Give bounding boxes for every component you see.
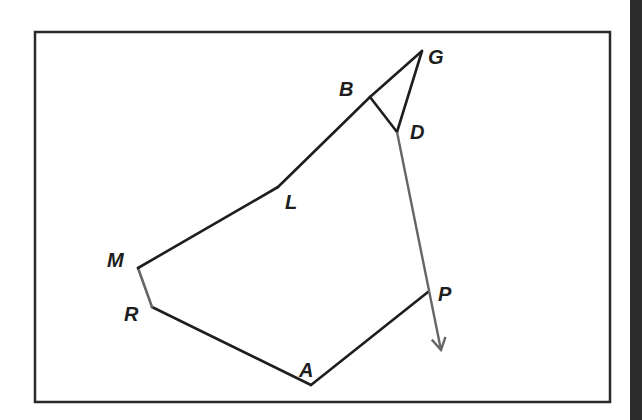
geometry-diagram: G B D L M R A P xyxy=(0,0,642,420)
label-G: G xyxy=(428,46,444,68)
vertex-labels: G B D L M R A P xyxy=(107,46,452,381)
label-B: B xyxy=(339,78,353,100)
segment-AP xyxy=(311,292,428,385)
segment-LB xyxy=(278,97,370,187)
label-P: P xyxy=(438,283,452,305)
segment-RM xyxy=(138,268,152,307)
arrow-shaft xyxy=(397,132,441,350)
segment-ML xyxy=(138,187,278,268)
polygon-segments xyxy=(138,51,428,385)
segment-BD xyxy=(370,97,397,132)
label-A: A xyxy=(298,359,313,381)
label-L: L xyxy=(285,191,297,213)
direction-arrow xyxy=(397,132,445,350)
diagram-canvas: G B D L M R A P xyxy=(0,0,642,420)
scan-edge-strip xyxy=(630,0,642,420)
label-M: M xyxy=(107,249,125,271)
diagram-frame xyxy=(35,32,610,402)
label-D: D xyxy=(410,121,424,143)
label-R: R xyxy=(124,303,139,325)
segment-AR xyxy=(152,307,311,385)
